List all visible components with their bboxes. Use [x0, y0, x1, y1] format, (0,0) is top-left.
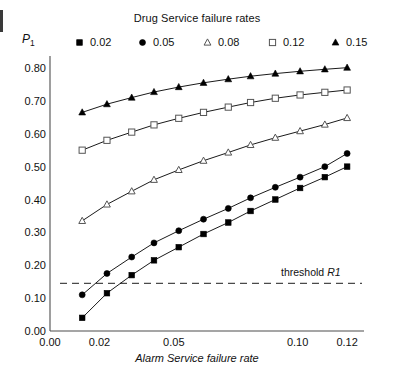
filled-circle-marker-icon [129, 254, 135, 260]
filled-circle-marker-icon [104, 270, 110, 276]
figure-panel: Drug Service failure rates 0.020.050.080… [0, 0, 394, 381]
open-square-marker-icon [272, 95, 278, 101]
filled-square-marker-icon [151, 258, 157, 264]
open-square-marker-icon [225, 104, 231, 110]
filled-circle-marker-icon [272, 184, 278, 190]
filled-square-marker-icon [129, 272, 135, 278]
open-square-marker-icon [297, 92, 303, 98]
series-line [82, 90, 347, 150]
filled-square-marker-icon [79, 315, 85, 321]
open-square-marker-icon [79, 147, 85, 153]
open-triangle-marker-icon [344, 114, 351, 120]
filled-circle-marker-icon [344, 150, 350, 156]
filled-square-marker-icon [248, 208, 254, 214]
threshold-label-text: threshold [281, 266, 327, 278]
open-square-marker-icon [247, 99, 253, 105]
open-triangle-marker-icon [128, 188, 135, 194]
filled-square-marker-icon [104, 290, 110, 296]
open-triangle-marker-icon [79, 217, 86, 223]
filled-square-marker-icon [344, 164, 350, 170]
filled-square-marker-icon [225, 220, 231, 226]
data-series [79, 64, 351, 115]
plot-area [0, 0, 394, 381]
filled-square-marker-icon [273, 197, 279, 203]
filled-square-marker-icon [297, 185, 303, 191]
threshold-label-emphasis: R1 [327, 266, 340, 278]
threshold-annotation-label: threshold R1 [281, 266, 341, 278]
open-square-marker-icon [151, 122, 157, 128]
filled-circle-marker-icon [322, 164, 328, 170]
filled-circle-marker-icon [79, 292, 85, 298]
series-line [82, 68, 347, 113]
filled-circle-marker-icon [151, 240, 157, 246]
filled-square-marker-icon [322, 174, 328, 180]
open-square-marker-icon [322, 89, 328, 95]
filled-circle-marker-icon [297, 174, 303, 180]
data-series [79, 164, 350, 321]
open-square-marker-icon [200, 109, 206, 115]
filled-square-marker-icon [176, 244, 182, 250]
series-line [82, 118, 347, 221]
open-square-marker-icon [176, 115, 182, 121]
open-square-marker-icon [344, 87, 350, 93]
filled-triangle-marker-icon [344, 64, 351, 70]
open-square-marker-icon [129, 129, 135, 135]
open-triangle-marker-icon [104, 201, 111, 207]
data-series [79, 87, 350, 153]
filled-circle-marker-icon [176, 228, 182, 234]
open-square-marker-icon [104, 137, 110, 143]
filled-circle-marker-icon [201, 216, 207, 222]
filled-square-marker-icon [201, 231, 207, 237]
filled-circle-marker-icon [225, 205, 231, 211]
filled-circle-marker-icon [248, 195, 254, 201]
data-series [79, 114, 351, 223]
series-line [82, 167, 347, 318]
